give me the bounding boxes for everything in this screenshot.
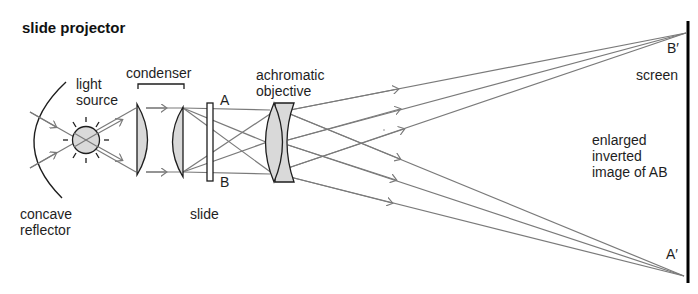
condenser-lens-2 [173,107,184,177]
slide-label: slide [190,206,219,222]
achromatic-objective-label: achromatic objective [256,67,324,99]
b-prime-label: B′ [667,40,679,56]
achromatic-objective-lens [266,103,295,182]
slide-projector-diagram: slide projector light source condenser a… [0,0,698,294]
light-source-icon [63,117,109,163]
point-b-label: B [220,174,229,190]
condenser-bracket [138,84,184,89]
illumination-rays [30,108,276,176]
image-caption-label: enlarged inverted image of AB [592,132,668,180]
diagram-title: slide projector [22,20,125,36]
slide [207,103,213,181]
concave-reflector [34,82,66,198]
concave-reflector-label: concave reflector [20,206,72,238]
point-a-label: A [220,92,229,108]
a-prime-label: A′ [666,246,678,262]
screen-label: screen [636,67,678,83]
light-source-label: light source [76,76,118,108]
condenser-lens-1 [137,104,148,175]
condenser-label: condenser [126,65,191,81]
